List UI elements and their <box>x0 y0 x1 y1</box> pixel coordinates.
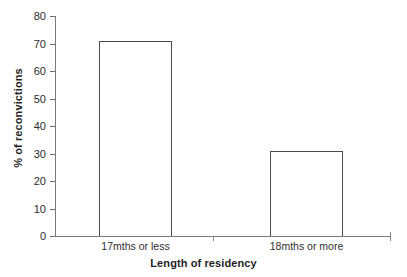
y-axis-tick <box>50 71 55 72</box>
y-axis-tick <box>50 181 55 182</box>
y-axis-tick-label: 60 <box>0 66 46 77</box>
y-axis-tick <box>50 209 55 210</box>
bar <box>270 151 343 236</box>
y-axis-tick <box>50 236 55 237</box>
bar <box>99 41 172 236</box>
x-axis-tick <box>390 236 391 241</box>
y-axis-tick-label: 20 <box>0 176 46 187</box>
y-axis-line <box>55 16 56 237</box>
y-axis-tick <box>50 99 55 100</box>
y-axis-tick <box>50 44 55 45</box>
y-axis-tick-label: 50 <box>0 94 46 105</box>
y-axis-tick <box>50 154 55 155</box>
y-axis-tick-label: 80 <box>0 11 46 22</box>
x-axis-tick <box>213 236 214 241</box>
y-axis-tick-label: 70 <box>0 39 46 50</box>
y-axis-tick-label: 40 <box>0 121 46 132</box>
x-axis-title: Length of residency <box>0 257 407 269</box>
x-axis-category-label: 17mths or less <box>76 241 196 253</box>
bar-chart: % of reconvictions 01020304050607080 17m… <box>0 0 407 277</box>
x-axis-line <box>55 236 391 237</box>
x-axis-category-label: 18mths or more <box>247 241 367 253</box>
y-axis-tick-label: 30 <box>0 149 46 160</box>
y-axis-tick-label: 10 <box>0 204 46 215</box>
y-axis-tick <box>50 16 55 17</box>
y-axis-tick-label: 0 <box>0 231 46 242</box>
y-axis-tick <box>50 126 55 127</box>
